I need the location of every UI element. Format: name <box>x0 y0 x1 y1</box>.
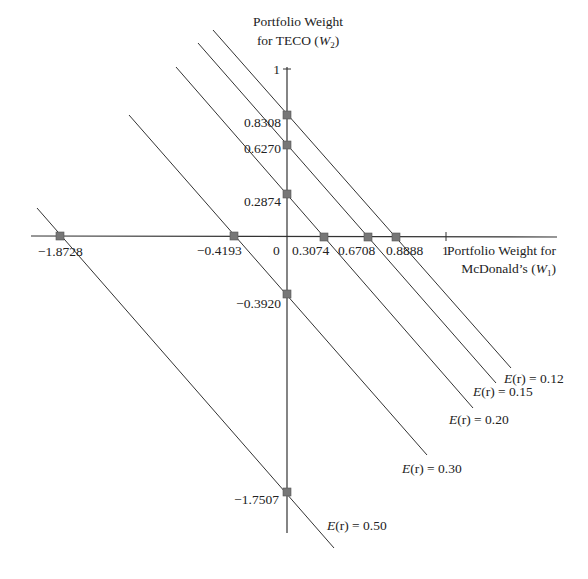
line-er-015 <box>198 43 496 383</box>
y-intercept-label-02874: 0.2874 <box>244 194 281 209</box>
marker-x-neg04193 <box>230 232 238 240</box>
y-tick-label-1: 1 <box>273 62 280 77</box>
er-label-030: E(r) = 0.30 <box>401 461 462 476</box>
x-axis <box>31 236 557 237</box>
x-intercept-label-08888: 0.8888 <box>386 243 423 258</box>
marker-y-02874 <box>283 190 291 198</box>
marker-x-06708 <box>364 233 372 241</box>
er-label-015: E(r) = 0.15 <box>472 384 533 399</box>
marker-x-03074 <box>320 233 328 241</box>
y-axis-title-line1: Portfolio Weight <box>253 14 343 29</box>
marker-x-08888 <box>392 233 400 241</box>
marker-x-neg18728 <box>56 232 64 240</box>
x-intercept-label-03074: 0.3074 <box>292 243 329 258</box>
y-axis-title-line2: for TECO (W2) <box>257 33 339 50</box>
portfolio-weight-chart: Portfolio Weight for TECO (W2) 1 0.8308 … <box>0 0 588 579</box>
er-label-020: E(r) = 0.20 <box>448 412 509 427</box>
y-intercept-label-08308: 0.8308 <box>244 115 281 130</box>
x-intercept-label-neg04193: −0.4193 <box>197 243 242 258</box>
marker-y-08308 <box>283 111 291 119</box>
marker-y-neg17507 <box>283 488 291 496</box>
line-er-030 <box>129 115 427 455</box>
origin-label: 0 <box>273 243 280 258</box>
er-label-050: E(r) = 0.50 <box>326 518 387 533</box>
y-intercept-label-neg03920: −0.3920 <box>236 296 281 311</box>
x-intercept-label-neg18728: −1.8728 <box>38 244 83 259</box>
marker-y-neg03920 <box>283 290 291 298</box>
x-axis-title-line1: Portfolio Weight for <box>447 243 556 258</box>
marker-y-06270 <box>283 141 291 149</box>
y-intercept-label-06270: 0.6270 <box>244 141 281 156</box>
y-intercept-label-neg17507: −1.7507 <box>234 492 279 507</box>
x-axis-title-line2: McDonald’s (W1) <box>461 261 556 278</box>
line-er-050 <box>37 208 334 548</box>
x-intercept-label-06708: 0.6708 <box>338 243 375 258</box>
